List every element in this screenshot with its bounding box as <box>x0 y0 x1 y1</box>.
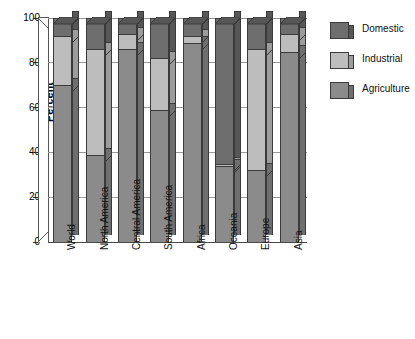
bar-segment-agriculture <box>53 85 72 242</box>
x-axis-tick-label: Africa <box>196 224 207 250</box>
bar-africa[interactable] <box>183 18 202 242</box>
legend-swatch <box>330 52 349 69</box>
bar-edge-connector <box>72 29 79 36</box>
y-axis-tick <box>33 62 38 63</box>
bar-segment-side-industrial <box>266 42 273 163</box>
x-axis-tick-label: Central America <box>131 179 142 250</box>
bar-segment-industrial <box>183 36 202 43</box>
bar-edge-connector <box>299 45 306 52</box>
bar-segment-side-industrial <box>105 42 112 147</box>
bar-asia[interactable] <box>280 18 299 242</box>
bar-oceania[interactable] <box>215 18 234 242</box>
bar-edge-connector <box>137 42 144 49</box>
bar-segment-side-agriculture <box>202 36 209 235</box>
bar-segment-side-domestic <box>234 11 241 157</box>
bar-segment-domestic <box>215 18 234 164</box>
bar-edge-connector <box>72 78 79 85</box>
bar-edge-connector <box>169 103 176 110</box>
legend-swatch <box>330 22 349 39</box>
bar-edge-connector <box>137 27 144 34</box>
legend-label: Agriculture <box>362 83 410 94</box>
legend-item[interactable]: Agriculture <box>330 80 415 106</box>
bar-top-face <box>247 11 273 18</box>
x-axis-tick-label: Oceania <box>228 213 239 250</box>
bar-top-face <box>53 11 79 18</box>
y-axis-tick <box>33 107 38 108</box>
legend-swatch-side <box>349 55 354 69</box>
bar-segment-industrial <box>86 49 105 154</box>
bar-top-face <box>86 11 112 18</box>
bar-top-face <box>150 11 176 18</box>
bar-segment-industrial <box>215 164 234 166</box>
bar-segment-side-agriculture <box>299 45 306 235</box>
bar-world[interactable] <box>53 18 72 242</box>
bar-edge-connector <box>105 42 112 49</box>
bar-edge-connector <box>105 148 112 155</box>
x-axis-tick-label: Asia <box>293 231 304 250</box>
stacked-bar-chart: Percent 020406080100 DomesticIndustrialA… <box>0 0 415 339</box>
bar-edge-connector <box>266 163 273 170</box>
bar-segment-industrial <box>247 49 266 170</box>
legend-label: Domestic <box>362 23 404 34</box>
legend-swatch-side <box>349 25 354 39</box>
bar-top-face <box>118 11 144 18</box>
bar-edge-connector <box>202 29 209 36</box>
legend-item[interactable]: Domestic <box>330 20 415 46</box>
y-axis-tick <box>33 242 38 243</box>
legend-item[interactable]: Industrial <box>330 50 415 76</box>
bar-top-face <box>280 11 306 18</box>
x-axis-tick-label: South America <box>163 185 174 250</box>
bar-edge-connector <box>169 51 176 58</box>
bar-segment-side-agriculture <box>72 78 79 235</box>
y-axis-tick-labels: 020406080100 <box>12 0 40 339</box>
bar-top-face <box>215 11 241 18</box>
axis-left-wall <box>38 18 49 242</box>
legend-swatch-side <box>349 85 354 99</box>
bar-segment-industrial <box>53 36 72 85</box>
y-axis-tick <box>33 18 38 19</box>
bar-segment-agriculture <box>183 43 202 242</box>
bar-edge-connector <box>234 157 241 164</box>
plot-area <box>48 18 307 242</box>
chart-legend: DomesticIndustrialAgriculture <box>330 20 415 110</box>
x-axis-tick-label: Europe <box>260 218 271 250</box>
bar-top-face <box>183 11 209 18</box>
x-axis-tick-label: World <box>66 224 77 250</box>
x-axis-tick-label: North America <box>99 187 110 250</box>
legend-label: Industrial <box>362 53 403 64</box>
bar-segment-agriculture <box>280 52 299 242</box>
bar-segment-industrial <box>280 34 299 52</box>
y-axis-tick <box>33 152 38 153</box>
bar-edge-connector <box>299 27 306 34</box>
legend-swatch <box>330 82 349 99</box>
bar-segment-industrial <box>118 34 137 50</box>
bar-europe[interactable] <box>247 18 266 242</box>
bar-edge-connector <box>266 42 273 49</box>
y-axis-tick <box>33 197 38 198</box>
bar-segment-industrial <box>150 58 169 110</box>
